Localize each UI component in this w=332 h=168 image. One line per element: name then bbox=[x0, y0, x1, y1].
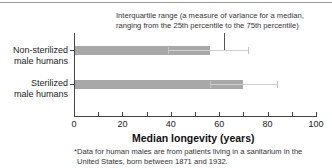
y-tick bbox=[70, 50, 74, 51]
x-tick-label: 80 bbox=[263, 119, 273, 129]
footnote-line-1: *Data for human males are from patients … bbox=[74, 147, 302, 157]
footnote-line-2: United States, born between 1871 and 193… bbox=[74, 157, 302, 167]
x-tick bbox=[98, 112, 99, 116]
top-rule bbox=[0, 2, 332, 3]
x-axis-title: Median longevity (years) bbox=[132, 132, 255, 144]
x-tick bbox=[147, 112, 148, 116]
footnote: *Data for human males are from patients … bbox=[74, 147, 302, 167]
x-tick-label: 0 bbox=[71, 119, 76, 129]
category-label-line: Non-sterilized bbox=[13, 45, 68, 56]
y-tick bbox=[70, 84, 74, 85]
x-tick bbox=[122, 112, 123, 116]
iqr-line-non-sterilized bbox=[168, 50, 248, 51]
category-label-non-sterilized: Non-sterilized male humans bbox=[13, 45, 68, 67]
x-tick bbox=[195, 112, 196, 116]
annotation-pointer bbox=[224, 33, 225, 50]
iqr-cap-upper bbox=[277, 81, 278, 88]
category-label-line: male humans bbox=[14, 89, 68, 100]
annotation-line-2: ranging from the 25th percentile to the … bbox=[116, 21, 304, 31]
x-tick bbox=[292, 112, 293, 116]
annotation-line-1: Interquartile range (a measure of varian… bbox=[116, 11, 304, 21]
x-tick-label: 20 bbox=[117, 119, 127, 129]
x-tick-label: 40 bbox=[166, 119, 176, 129]
x-tick bbox=[243, 112, 244, 116]
x-tick bbox=[171, 112, 172, 116]
x-tick bbox=[268, 112, 269, 116]
iqr-cap-upper bbox=[248, 47, 249, 54]
category-label-line: Sterilized bbox=[14, 78, 68, 89]
x-tick-label: 100 bbox=[308, 119, 323, 129]
iqr-cap-lower bbox=[210, 81, 211, 88]
iqr-annotation: Interquartile range (a measure of varian… bbox=[116, 11, 304, 31]
x-tick bbox=[219, 112, 220, 116]
category-label-line: male humans bbox=[13, 56, 68, 67]
x-axis bbox=[74, 116, 317, 117]
category-label-sterilized: Sterilized male humans bbox=[14, 78, 68, 100]
x-tick bbox=[74, 112, 75, 116]
x-tick-label: 60 bbox=[214, 119, 224, 129]
iqr-cap-lower bbox=[168, 47, 169, 54]
iqr-line-sterilized bbox=[210, 84, 278, 85]
x-tick bbox=[316, 112, 317, 116]
